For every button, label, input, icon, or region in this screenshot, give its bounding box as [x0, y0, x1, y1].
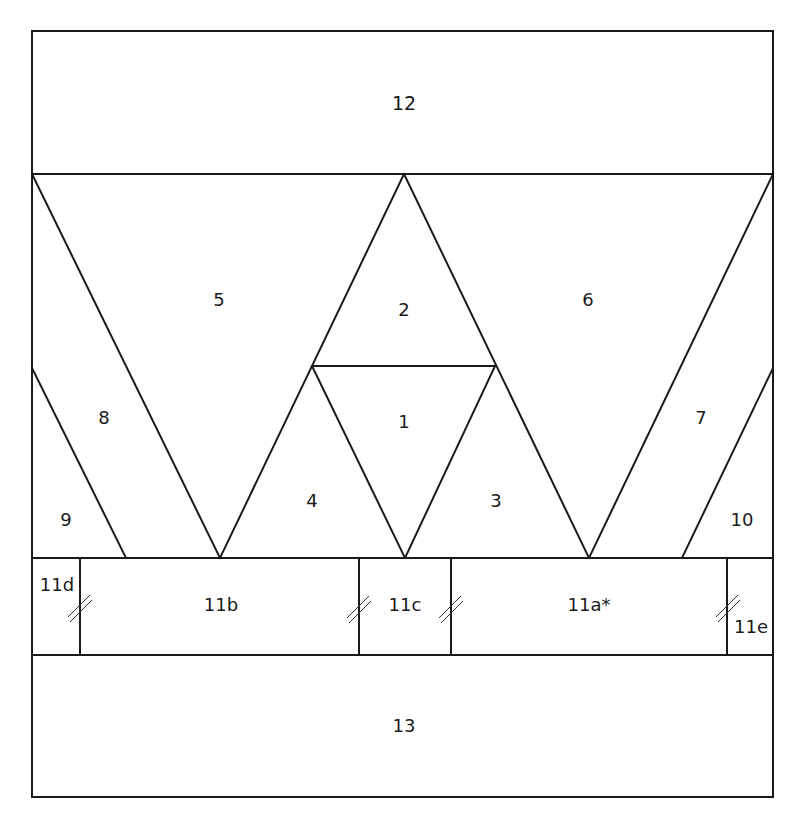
- piece-label-11b: 11b: [204, 594, 238, 615]
- piece-label-8: 8: [98, 407, 109, 428]
- piece-label-5: 5: [213, 289, 224, 310]
- piece-label-6: 6: [582, 289, 593, 310]
- piece-label-4: 4: [306, 490, 317, 511]
- line-9-8: [32, 368, 126, 558]
- piece-label-1: 1: [398, 411, 409, 432]
- piece-label-11d: 11d: [40, 574, 74, 595]
- piece-label-2: 2: [398, 299, 409, 320]
- line-6-7: [589, 174, 773, 558]
- piece-label-9: 9: [60, 509, 71, 530]
- piece-label-11c: 11c: [389, 594, 422, 615]
- line-1-4: [312, 366, 405, 558]
- piece-label-10: 10: [731, 509, 754, 530]
- piece-label-3: 3: [490, 490, 501, 511]
- line-7-10: [682, 368, 773, 558]
- piece-label-13: 13: [393, 715, 416, 736]
- piece-label-11a: 11a*: [568, 594, 611, 615]
- piece-label-7: 7: [695, 407, 706, 428]
- line-1-3: [405, 366, 495, 558]
- piece-label-12: 12: [392, 92, 416, 114]
- line-5-8: [32, 174, 220, 558]
- pattern-diagram: 12 5 2 6 8 1 7 4 3 9 10 11d 11b 11c 11a*…: [0, 0, 797, 813]
- piece-label-11e: 11e: [734, 616, 768, 637]
